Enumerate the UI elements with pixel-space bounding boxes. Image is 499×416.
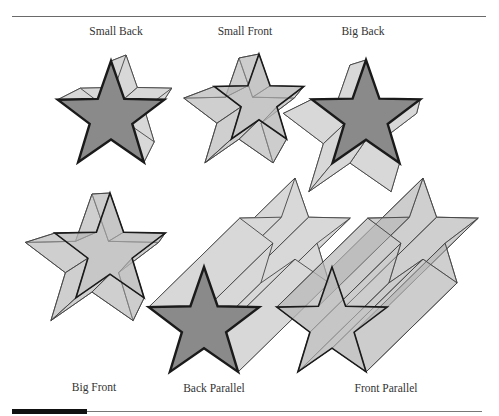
label-small-front: Small Front (218, 26, 273, 38)
panel-big-front (25, 193, 165, 321)
label-back-parallel: Back Parallel (183, 383, 245, 395)
panel-big-back (283, 60, 420, 192)
figure-stage: Small Back Small Front Big Back Big Fron… (0, 0, 499, 416)
panel-small-front (184, 54, 304, 163)
label-big-front: Big Front (72, 382, 116, 394)
label-front-parallel: Front Parallel (355, 383, 418, 395)
label-small-back: Small Back (89, 26, 142, 38)
bottom-rule-bar (12, 409, 87, 414)
panel-small-back (58, 55, 172, 162)
star-extrusion-diagram (0, 0, 499, 416)
label-big-back: Big Back (341, 26, 384, 38)
